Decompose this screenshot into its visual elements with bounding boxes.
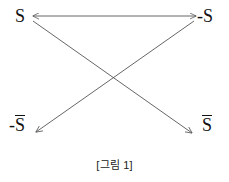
- node-label-neg-s-topright: -S: [197, 7, 213, 25]
- node-label-s-topleft: S: [15, 7, 25, 25]
- diagram-canvas: [0, 0, 229, 182]
- figure-caption: [그림 1]: [0, 156, 229, 172]
- edge-diagonal-tl-br: [33, 21, 192, 133]
- node-label-s-bar-bottomright: S: [202, 115, 212, 134]
- node-text: S: [15, 6, 25, 26]
- overbar-s: S: [15, 115, 25, 134]
- edge-diagonal-tr-bl: [36, 21, 194, 132]
- figure-container: S -S -S S [그림 1]: [0, 0, 229, 182]
- overbar-s: S: [202, 115, 212, 134]
- node-label-neg-s-bar-bottomleft: -S: [9, 115, 25, 134]
- node-text: -S: [197, 6, 213, 26]
